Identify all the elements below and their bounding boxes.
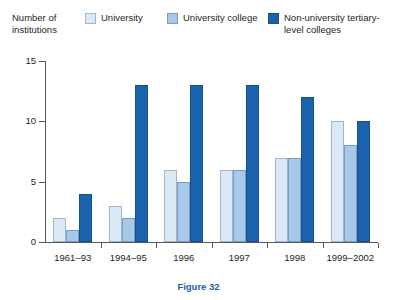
x-axis-tick: [378, 243, 379, 248]
bar: [79, 194, 92, 242]
x-axis-tick-label: 1998: [284, 252, 305, 263]
x-axis-tick-label: 1994–95: [110, 252, 147, 263]
y-axis-tick: [39, 242, 45, 243]
bar: [190, 85, 203, 242]
university-swatch-icon: [85, 13, 96, 24]
bar: [344, 145, 357, 242]
bar: [109, 206, 122, 242]
x-axis-tick: [323, 243, 324, 248]
chart-plot-area: 051015 1961–931994–951996199719981999–20…: [0, 46, 397, 276]
y-axis-tick-label: 0: [2, 236, 36, 247]
y-axis-tick-label: 10: [2, 115, 36, 126]
legend-item-university: University: [85, 12, 163, 24]
bar: [66, 230, 79, 242]
bar: [246, 85, 259, 242]
x-axis-tick-label: 1999–2002: [326, 252, 374, 263]
y-axis-line: [45, 61, 46, 243]
y-axis-tick-label: 15: [2, 55, 36, 66]
y-axis-title: Number of institutions: [12, 12, 90, 35]
bar: [164, 170, 177, 242]
legend-item-non-university: Non-university tertiary-level colleges: [268, 12, 390, 35]
bar: [331, 121, 344, 242]
bar-group: [109, 61, 148, 242]
bar-group: [275, 61, 314, 242]
bar-group: [220, 61, 259, 242]
bar: [357, 121, 370, 242]
bar: [233, 170, 246, 242]
legend-label-university-college: University college: [183, 12, 257, 24]
legend-label-university: University: [101, 12, 143, 24]
bar: [135, 85, 148, 242]
non-university-swatch-icon: [268, 13, 279, 24]
bar: [122, 218, 135, 242]
x-axis-tick: [156, 243, 157, 248]
bar-group: [53, 61, 92, 242]
bar: [53, 218, 66, 242]
y-axis-tick: [39, 61, 45, 62]
x-axis-tick-label: 1961–93: [54, 252, 91, 263]
x-axis-tick: [212, 243, 213, 248]
bar-group: [331, 61, 370, 242]
bar: [220, 170, 233, 242]
bar: [288, 158, 301, 242]
chart-header: Number of institutions University Univer…: [0, 0, 397, 46]
x-axis-tick: [267, 243, 268, 248]
y-axis-tick: [39, 182, 45, 183]
bar: [177, 182, 190, 242]
y-axis-title-line1: Number of: [12, 12, 56, 23]
figure-caption: Figure 32: [0, 281, 397, 292]
bar: [275, 158, 288, 242]
x-axis-tick-label: 1997: [229, 252, 250, 263]
y-axis-tick-label: 5: [2, 176, 36, 187]
y-axis-tick: [39, 121, 45, 122]
legend-item-university-college: University college: [167, 12, 267, 24]
y-axis-title-line2: institutions: [12, 24, 57, 35]
x-axis-tick-label: 1996: [173, 252, 194, 263]
university-college-swatch-icon: [167, 13, 178, 24]
bar-group: [164, 61, 203, 242]
bar: [301, 97, 314, 242]
legend-label-non-university: Non-university tertiary-level colleges: [284, 12, 390, 35]
x-axis-tick: [101, 243, 102, 248]
